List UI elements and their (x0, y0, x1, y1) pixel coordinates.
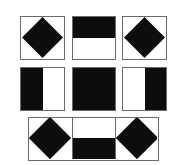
r2-c2-full-black-tile (72, 67, 116, 111)
r3-c3-diamond-tile (116, 118, 157, 159)
bottom-half-fill (73, 138, 115, 159)
r2-c3-right-half-tile (122, 67, 167, 111)
r3-c2-bottom-half-tile (73, 118, 116, 159)
diamond-shape (21, 17, 62, 58)
r2-c1-left-half-tile (20, 67, 65, 111)
top-half-fill (73, 17, 115, 38)
r3-joined-strip (28, 117, 159, 161)
r1-c3-diamond-tile (122, 16, 167, 60)
diamond-shape (29, 118, 71, 159)
right-half-fill (145, 68, 167, 110)
full-fill (73, 68, 115, 110)
r3-c1-diamond-tile (29, 118, 73, 159)
left-half-fill (21, 68, 43, 110)
r1-c1-diamond-tile (20, 16, 65, 60)
diamond-shape (123, 17, 164, 58)
r1-c2-top-half-tile (72, 16, 116, 60)
diamond-shape (116, 118, 157, 159)
